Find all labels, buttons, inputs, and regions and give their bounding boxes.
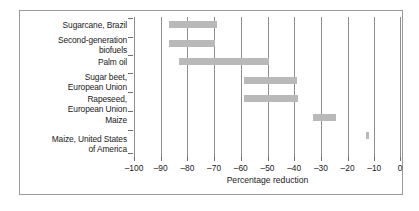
x-tick--80: [187, 157, 188, 161]
x-tick--60: [241, 157, 242, 161]
category-tick-5: [128, 111, 133, 112]
gridline--20: [348, 17, 349, 157]
gridline--90: [161, 17, 162, 157]
category-tick-2: [128, 55, 133, 56]
x-tick-label--40: –40: [287, 163, 301, 173]
category-tick-7: [128, 153, 133, 154]
category-label-palm-oil: Palm oil: [98, 58, 127, 68]
x-tick-label--10: –10: [367, 163, 381, 173]
x-tick--100: [134, 157, 135, 161]
category-tick-1: [128, 37, 133, 38]
category-tick-3: [128, 73, 133, 74]
x-tick-label--90: –90: [154, 163, 168, 173]
chart-plot-wrapper: Sugarcane, Brazil Second-generation biof…: [20, 11, 404, 196]
x-axis: –100 –90 –80 –70 –60 –50 –40 –30 –20 –10…: [134, 157, 401, 191]
x-tick--70: [214, 157, 215, 161]
gridline-0: [400, 17, 401, 157]
gridline--80: [187, 17, 188, 157]
bar-maize-united-states-of-america: [366, 132, 368, 139]
category-label-sugarcane-brazil: Sugarcane, Brazil: [63, 21, 127, 31]
x-tick-label--70: –70: [207, 163, 221, 173]
x-tick-label--60: –60: [234, 163, 248, 173]
bar-maize: [313, 114, 336, 121]
category-label-sugar-beet-european-union: Sugar beet, European Union: [68, 73, 127, 92]
gridline--60: [241, 17, 242, 157]
x-axis-title: Percentage reduction: [134, 175, 401, 185]
category-label-rapeseed-european-union: Rapeseed, European Union: [68, 95, 127, 114]
gridline--10: [374, 17, 375, 157]
gridline--50: [268, 17, 269, 157]
bar-sugar-beet-european-union: [244, 77, 297, 84]
category-tick-6: [128, 130, 133, 131]
x-tick--40: [294, 157, 295, 161]
chart-frame: Sugarcane, Brazil Second-generation biof…: [19, 10, 403, 195]
x-tick--50: [268, 157, 269, 161]
x-tick-label-0: 0: [398, 163, 403, 173]
category-label-maize: Maize: [105, 116, 127, 126]
x-tick-0: [400, 157, 401, 161]
x-tick-label--100: –100: [125, 163, 144, 173]
category-label-maize-united-states-of-america: Maize, United States of America: [52, 135, 127, 154]
x-tick-label--30: –30: [314, 163, 328, 173]
x-tick--90: [161, 157, 162, 161]
category-tick-0: [128, 18, 133, 19]
x-tick-label--20: –20: [341, 163, 355, 173]
x-tick-label--50: –50: [261, 163, 275, 173]
category-tick-4: [128, 92, 133, 93]
bar-rapeseed-european-union: [244, 95, 299, 102]
bar-sugarcane-brazil: [169, 21, 217, 28]
x-tick--30: [321, 157, 322, 161]
bar-palm-oil: [179, 58, 268, 65]
x-tick--10: [374, 157, 375, 161]
gridline--30: [321, 17, 322, 157]
x-tick--20: [348, 157, 349, 161]
category-axis-labels: Sugarcane, Brazil Second-generation biof…: [20, 17, 127, 157]
plot-area: [134, 17, 401, 157]
bar-second-generation-biofuels: [169, 40, 216, 47]
x-tick-label--80: –80: [180, 163, 194, 173]
gridline--100: [134, 17, 135, 157]
gridline--40: [294, 17, 295, 157]
gridline--70: [214, 17, 215, 157]
category-label-second-generation-biofuels: Second-generation biofuels: [58, 36, 127, 55]
